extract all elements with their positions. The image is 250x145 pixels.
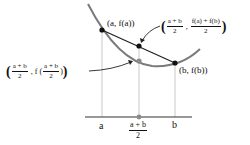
point-curve-midpoint <box>136 58 141 63</box>
label-point-b: (b, f(b)) <box>179 66 208 75</box>
fraction-x: a + b2 <box>12 63 28 80</box>
point-b <box>172 60 177 65</box>
arrowhead-chord <box>140 38 145 43</box>
convex-curve <box>88 4 200 66</box>
axis-midpoint-marker <box>137 115 142 120</box>
label-curve-midpoint: (a + b2,f (a + b2)) <box>6 63 67 80</box>
axis-label-a: a <box>99 121 103 131</box>
point-a <box>99 27 104 32</box>
arrow-to-chord-midpoint <box>142 26 160 41</box>
axis-label-b: b <box>172 120 177 130</box>
label-chord-midpoint: (a + b2,f(a) + f(b)2) <box>161 18 226 35</box>
arrow-to-curve-midpoint <box>89 62 131 71</box>
fraction-x: a + b2 <box>167 18 183 35</box>
point-chord-midpoint <box>136 43 141 48</box>
label-point-a: (a, f(a)) <box>107 19 134 28</box>
fraction-arg: a + b2 <box>43 63 59 80</box>
fraction-y: f(a) + f(b)2 <box>191 18 221 35</box>
axis-label-midpoint: a + b2 <box>128 121 148 140</box>
